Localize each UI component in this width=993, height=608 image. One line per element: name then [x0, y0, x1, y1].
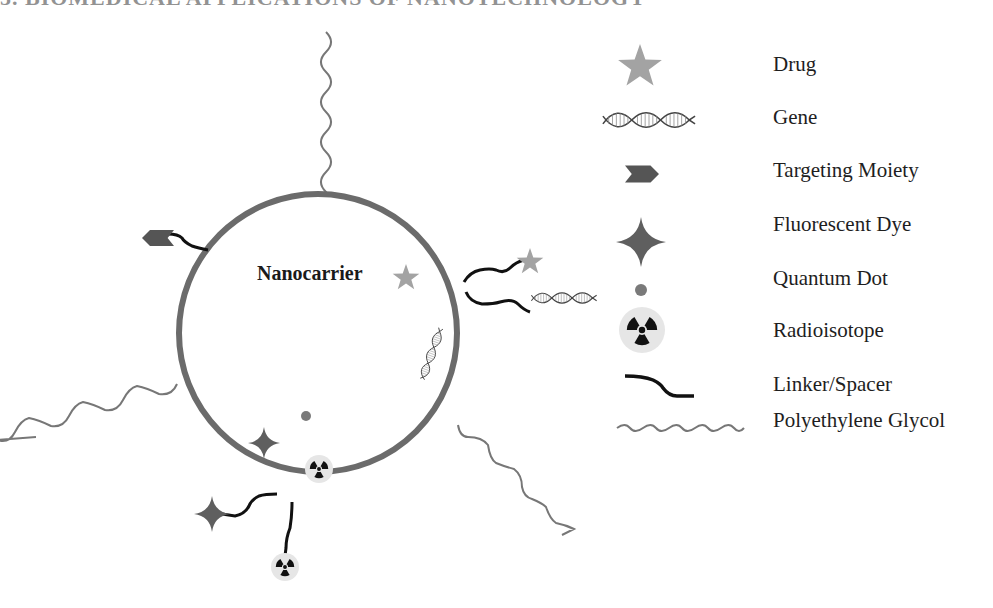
legend-linker-curve-icon [625, 376, 694, 396]
encapsulated-radioisotope-icon [305, 455, 333, 483]
legend-dna-helix-icon [603, 113, 695, 127]
peg-chain-lower-right [458, 425, 574, 535]
legend-radiation-icon [619, 307, 665, 353]
legend-dot-icon [635, 284, 647, 296]
peg-chain-top [321, 32, 331, 195]
legend-star-icon [618, 44, 662, 86]
radioisotope-attachment-external [271, 502, 299, 581]
gene-attachment-external [466, 292, 597, 312]
fluorescent-dye-attachment-external [194, 494, 277, 532]
targeting-moiety-attachment [142, 230, 208, 250]
nanocarrier-diagram [0, 0, 993, 608]
peg-chain-left [0, 384, 177, 441]
nanocarrier-label: Nanocarrier [257, 262, 363, 285]
encapsulated-quantum-dot-icon [301, 411, 311, 421]
legend-four-point-star-icon [616, 217, 666, 267]
legend-wavy-line-icon [617, 425, 744, 431]
legend-chevron-arrow-icon [625, 166, 659, 183]
drug-attachment-external [464, 248, 543, 282]
nanocarrier-membrane [179, 194, 457, 472]
